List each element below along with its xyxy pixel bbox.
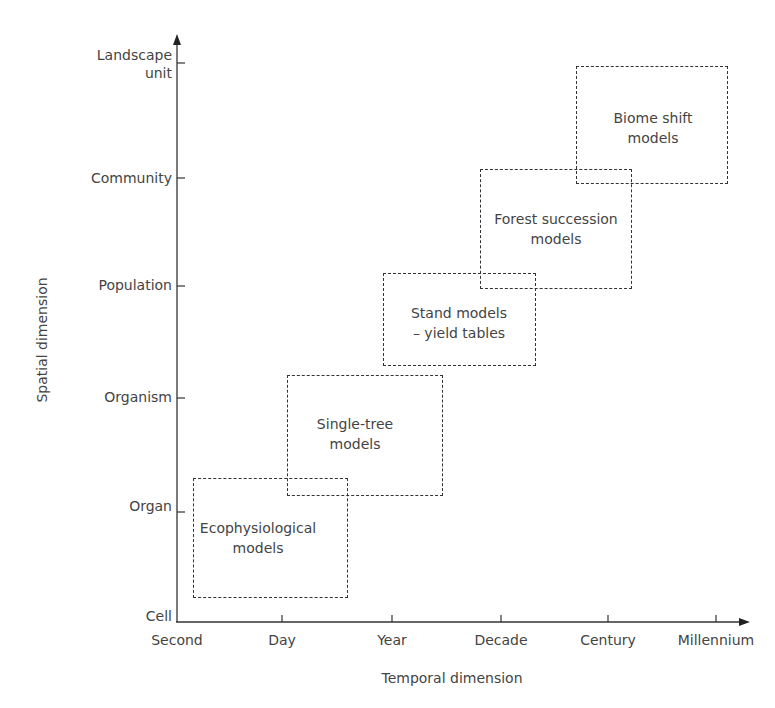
label-ecophysiological-models: Ecophysiological models [200, 518, 316, 558]
y-tick-organism: Organism [104, 389, 172, 406]
y-tick-landscape-line1: Landscape [97, 46, 172, 64]
y-tick-cell: Cell [146, 608, 172, 625]
x-tick-century: Century [580, 632, 636, 649]
y-tick-population: Population [98, 277, 172, 294]
y-tick-organ: Organ [129, 498, 172, 515]
x-tick-day: Day [268, 632, 296, 649]
y-axis-title: Spatial dimension [34, 277, 50, 402]
label-single-tree-models: Single-tree models [317, 414, 393, 454]
x-axis-arrow-icon [739, 618, 750, 626]
x-axis-title: Temporal dimension [381, 670, 522, 686]
label-forest-succession-models: Forest succession models [494, 209, 618, 249]
x-tick-millennium: Millennium [678, 632, 755, 649]
x-tick-decade: Decade [474, 632, 527, 649]
x-tick-year: Year [377, 632, 407, 649]
y-tick-landscape-line2: unit [97, 64, 172, 82]
y-tick-landscape-unit: Landscape unit [97, 46, 172, 82]
y-axis-arrow-icon [173, 34, 181, 45]
x-tick-second: Second [151, 632, 203, 649]
label-stand-models: Stand models – yield tables [411, 303, 507, 343]
label-biome-shift-models: Biome shift models [614, 108, 693, 148]
y-tick-community: Community [91, 170, 172, 187]
